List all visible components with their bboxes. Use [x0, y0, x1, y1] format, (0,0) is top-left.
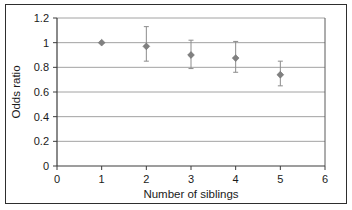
- x-tick-label-1: 1: [99, 173, 105, 185]
- x-tick-label-2: 2: [143, 173, 149, 185]
- x-tick-labels: 0 1 2 3 4 5 6: [54, 173, 328, 185]
- x-tick-label-3: 3: [188, 173, 194, 185]
- y-tick-label-1.2: 1.2: [34, 12, 49, 24]
- y-tick-label-0.4: 0.4: [34, 111, 49, 123]
- y-tick-label-0.8: 0.8: [34, 61, 49, 73]
- x-axis-title: Number of siblings: [143, 188, 238, 200]
- y-tick-labels: 1.2 1 0.8 0.6 0.4 0.2 0: [34, 12, 49, 172]
- y-axis-title: Odds ratio: [10, 65, 22, 118]
- y-tick-label-0: 0: [43, 160, 49, 172]
- y-tick-label-0.6: 0.6: [34, 86, 49, 98]
- y-tick-label-0.2: 0.2: [34, 135, 49, 147]
- x-tick-label-0: 0: [54, 173, 60, 185]
- x-tick-label-4: 4: [233, 173, 239, 185]
- odds-ratio-scatter-chart: 1.2 1 0.8 0.6 0.4 0.2 0 0 1 2 3 4 5 6 Nu…: [0, 0, 352, 210]
- x-tick-label-6: 6: [322, 173, 328, 185]
- x-tick-label-5: 5: [277, 173, 283, 185]
- figure-container: 1.2 1 0.8 0.6 0.4 0.2 0 0 1 2 3 4 5 6 Nu…: [0, 0, 352, 210]
- x-axis-ticks: [57, 166, 325, 170]
- y-tick-label-1: 1: [43, 37, 49, 49]
